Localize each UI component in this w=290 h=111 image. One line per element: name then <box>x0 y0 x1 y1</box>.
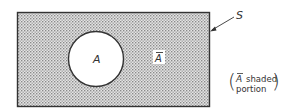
arrowhead-icon <box>210 27 217 32</box>
venn-diagram: A A S ( A shaded portion ) <box>0 0 290 111</box>
caption-close-paren: ) <box>272 69 280 93</box>
complement-label: A <box>154 53 162 64</box>
caption-line2: portion <box>236 84 266 94</box>
caption-symbol: A <box>235 74 242 84</box>
set-a-label: A <box>92 53 101 66</box>
universe-label: S <box>236 9 243 22</box>
caption-open-paren: ( <box>228 69 236 93</box>
